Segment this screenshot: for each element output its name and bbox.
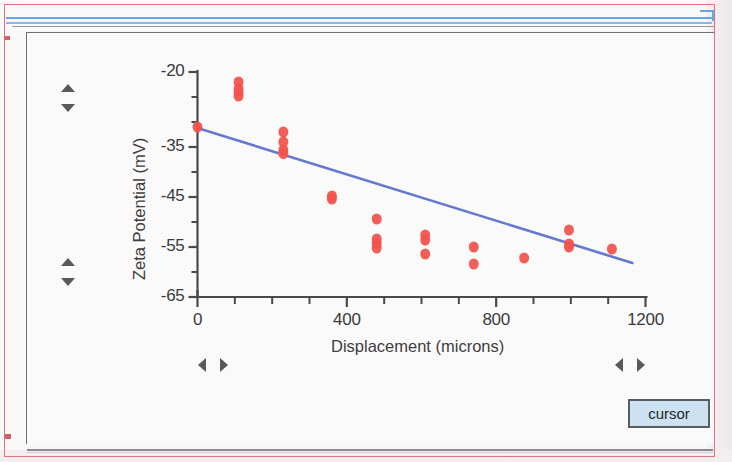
chevron-down-icon[interactable] [61, 278, 75, 286]
chevron-up-icon[interactable] [61, 258, 75, 266]
y-tick-label: -45 [151, 186, 185, 206]
panel-bottom-rule [27, 449, 713, 451]
y-tick-label: -55 [151, 236, 185, 256]
cursor-button-label: cursor [648, 405, 690, 422]
x-tick-label: 1200 [616, 310, 676, 330]
vertical-scale-spinner-top[interactable] [57, 82, 79, 126]
title-bar-rule-lower [6, 22, 712, 24]
y-axis-title: Zeta Potential (mV) [130, 138, 149, 280]
chevron-left-icon[interactable] [615, 358, 623, 372]
x-tick-label: 800 [466, 310, 526, 330]
x-tick-label: 0 [168, 310, 228, 330]
y-tick-label: -65 [151, 286, 185, 306]
horizontal-scale-spinner-left[interactable] [196, 355, 240, 377]
title-bar-corner [700, 10, 714, 21]
horizontal-scale-spinner-right[interactable] [613, 355, 657, 377]
x-axis-title: Displacement (microns) [331, 337, 504, 356]
scanned-page: Displacement (microns) Zeta Potential (m… [0, 0, 732, 462]
cursor-button[interactable]: cursor [628, 399, 710, 428]
y-tick-label: -35 [151, 136, 185, 156]
chevron-left-icon[interactable] [198, 358, 206, 372]
page-edge-mark-top [5, 36, 10, 40]
vertical-scale-spinner-bottom[interactable] [57, 256, 79, 300]
chevron-up-icon[interactable] [61, 84, 75, 92]
chevron-right-icon[interactable] [220, 358, 228, 372]
chevron-down-icon[interactable] [61, 104, 75, 112]
page-edge-mark-bottom [5, 434, 11, 439]
x-tick-label: 400 [317, 310, 377, 330]
chevron-right-icon[interactable] [637, 358, 645, 372]
panel-top-rule [12, 26, 714, 27]
title-bar-rule-upper [6, 17, 712, 19]
y-tick-label: -20 [151, 61, 185, 81]
panel-bottom-rule-shadow [27, 452, 713, 453]
